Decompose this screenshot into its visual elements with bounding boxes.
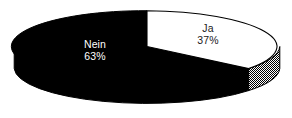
pie-chart-figure: Ja 37% Nein 63% bbox=[0, 0, 292, 118]
pie-chart-graphic bbox=[0, 0, 292, 118]
